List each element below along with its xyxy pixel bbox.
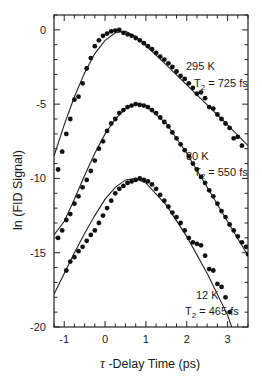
data-point (97, 146, 102, 151)
data-point (244, 244, 249, 249)
data-point (113, 117, 118, 122)
data-point (174, 215, 179, 220)
data-point (199, 243, 204, 248)
data-point (154, 111, 159, 116)
data-point (133, 102, 138, 107)
data-point (64, 218, 69, 223)
data-point (137, 38, 142, 43)
data-point (105, 206, 110, 211)
data-point (109, 121, 114, 126)
data-point (223, 295, 228, 300)
data-point (186, 236, 191, 241)
data-point (113, 28, 118, 33)
series-label: 12 K (196, 289, 219, 301)
data-point (158, 115, 163, 120)
data-point (121, 184, 126, 189)
x-tick-label: 1 (143, 333, 149, 345)
x-tick-label: 0 (102, 333, 108, 345)
data-point (56, 236, 61, 241)
data-point (170, 65, 175, 70)
data-point (56, 167, 61, 172)
data-point (178, 74, 183, 79)
data-point (231, 136, 236, 141)
data-point (195, 241, 200, 246)
data-point (223, 121, 228, 126)
data-point (166, 61, 171, 66)
data-point (117, 28, 122, 33)
x-tick-label: 3 (225, 333, 231, 345)
data-point (146, 105, 151, 110)
chart: -10123 0-5-10-15-20 295 KT2 = 725 fs80 K… (0, 0, 262, 381)
data-point (88, 169, 93, 174)
data-point (219, 285, 224, 290)
data-point (125, 105, 130, 110)
y-axis-label: ln (FID Signal) (11, 150, 25, 230)
data-point (246, 252, 251, 257)
data-point (240, 143, 245, 148)
data-point (84, 238, 89, 243)
x-tick-label: 2 (184, 333, 190, 345)
data-point (113, 191, 118, 196)
y-tick-label: -10 (30, 172, 46, 184)
data-point (68, 212, 73, 217)
data-point (166, 124, 171, 129)
data-point (76, 249, 81, 254)
data-point (80, 185, 85, 190)
y-tick-label: -20 (30, 321, 46, 333)
t2-label: T2 = 465 fs (185, 305, 239, 320)
data-point (170, 130, 175, 135)
data-point (84, 66, 89, 71)
data-point (186, 81, 191, 86)
data-point (76, 94, 81, 99)
data-point (211, 194, 216, 199)
data-point (162, 120, 167, 125)
data-point (109, 29, 114, 34)
y-tick-label: 0 (40, 24, 46, 36)
data-point (101, 213, 106, 218)
data-point (125, 32, 130, 37)
data-point (88, 233, 93, 238)
data-point (227, 126, 232, 131)
data-point (133, 178, 138, 183)
data-point (84, 178, 89, 183)
data-point (240, 240, 245, 245)
data-point (64, 132, 69, 137)
series-295-k (54, 28, 248, 172)
data-point (129, 33, 134, 38)
data-point (195, 91, 200, 96)
data-point (182, 228, 187, 233)
data-point (117, 111, 122, 116)
data-point (215, 282, 220, 287)
data-point (162, 57, 167, 62)
data-point (178, 142, 183, 147)
data-point (174, 69, 179, 74)
series-label: 80 K (186, 150, 209, 162)
data-point (105, 129, 110, 134)
data-point (158, 54, 163, 59)
t2-label: T2 = 550 fs (194, 166, 248, 181)
data-point (60, 228, 65, 233)
data-point (207, 188, 212, 193)
data-point (142, 41, 147, 46)
data-point (125, 181, 130, 186)
data-point (170, 210, 175, 215)
data-point (101, 33, 106, 38)
data-point (166, 204, 171, 209)
data-point (203, 96, 208, 101)
data-point (101, 139, 106, 144)
data-point (109, 198, 114, 203)
data-point (97, 38, 102, 43)
y-tick-label: -15 (30, 247, 46, 259)
data-point (80, 81, 85, 86)
data-point (227, 222, 232, 227)
data-point (207, 267, 212, 272)
data-point (92, 158, 97, 163)
data-point (231, 228, 236, 233)
data-point (154, 51, 159, 56)
data-point (150, 108, 155, 113)
data-point (146, 44, 151, 49)
data-point (174, 136, 179, 141)
data-point (158, 192, 163, 197)
data-point (72, 97, 77, 102)
data-point (215, 201, 220, 206)
